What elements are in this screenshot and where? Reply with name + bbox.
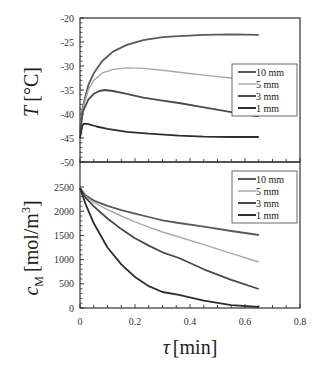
series-line-1mm: [80, 124, 259, 138]
legend-entry: 10 mm: [256, 67, 284, 78]
y-tick-label: 1500: [54, 230, 74, 241]
legend-entry: 5 mm: [256, 79, 279, 90]
y-tick-label: 2500: [54, 182, 74, 193]
top-y-axis-title: T[°C]: [20, 67, 42, 117]
legend-entry: 5 mm: [256, 186, 279, 197]
y-tick-label: -40: [61, 109, 74, 120]
temperature-panel: -50-45-40-35-30-25-2010 mm5 mm3 mm1 mm: [61, 13, 300, 168]
y-tick-label: 2000: [54, 206, 74, 217]
x-tick-label: 0.2: [129, 316, 142, 327]
y-tick-label: -50: [61, 157, 74, 168]
y-tick-label: -25: [61, 37, 74, 48]
chart-canvas: -50-45-40-35-30-25-2010 mm5 mm3 mm1 mm 0…: [0, 0, 319, 370]
y-tick-label: 0: [69, 303, 74, 314]
x-tick-label: 0.6: [239, 316, 252, 327]
legend-entry: 1 mm: [256, 210, 279, 221]
y-tick-label: -30: [61, 61, 74, 72]
y-tick-label: -45: [61, 133, 74, 144]
x-tick-label: 0: [78, 316, 83, 327]
legend-entry: 10 mm: [256, 174, 284, 185]
x-axis-title: τ[min]: [163, 336, 218, 358]
y-tick-label: 1000: [54, 254, 74, 265]
legend-entry: 3 mm: [256, 91, 279, 102]
x-tick-label: 0.8: [294, 316, 307, 327]
y-tick-label: 500: [59, 278, 74, 289]
y-tick-label: -20: [61, 13, 74, 24]
figure: -50-45-40-35-30-25-2010 mm5 mm3 mm1 mm 0…: [0, 0, 319, 370]
concentration-panel: 0500100015002000250000.20.40.60.810 mm5 …: [54, 162, 306, 327]
y-tick-label: -35: [61, 85, 74, 96]
bottom-y-axis-title: cM[mol/m3]: [19, 200, 46, 295]
x-tick-label: 0.4: [184, 316, 197, 327]
legend-entry: 1 mm: [256, 103, 279, 114]
legend: 10 mm5 mm3 mm1 mm: [232, 64, 297, 116]
legend: 10 mm5 mm3 mm1 mm: [232, 171, 297, 223]
legend-entry: 3 mm: [256, 198, 279, 209]
